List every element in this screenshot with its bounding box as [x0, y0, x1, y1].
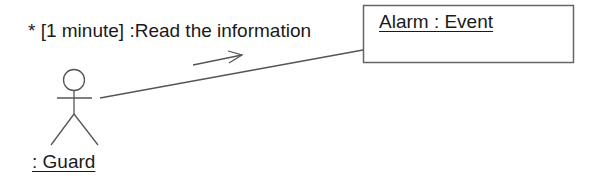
- message-arrow-icon: [193, 51, 242, 65]
- actor-icon: [51, 70, 98, 146]
- object-label: Alarm : Event: [379, 11, 493, 33]
- collaboration-diagram: * [1 minute] :Read the information Alarm…: [0, 0, 608, 185]
- message-label: * [1 minute] :Read the information: [28, 20, 311, 42]
- actor-label: : Guard: [32, 151, 95, 173]
